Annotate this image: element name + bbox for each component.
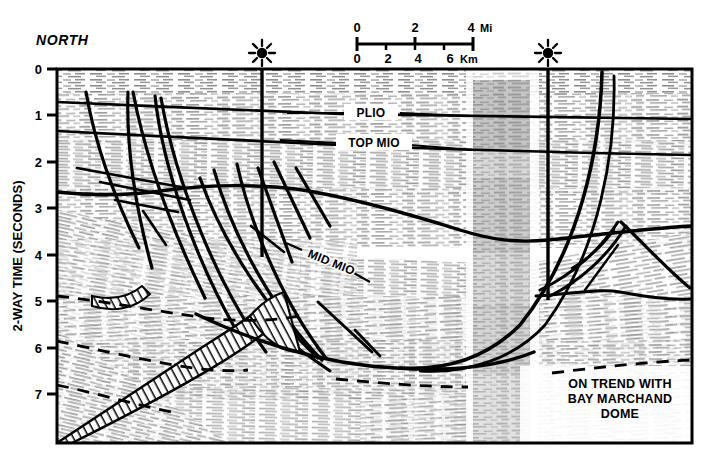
y-tick-label-0: 0: [35, 62, 42, 77]
trend-note-line1: ON TREND WITH: [568, 377, 671, 391]
scale-km-tick-2: 2: [384, 51, 391, 66]
horizon-label-plio: PLIO: [357, 106, 386, 120]
well-marker-2[interactable]: [535, 40, 561, 66]
trend-note-line2: BAY MARCHAND: [568, 392, 673, 406]
y-tick-label-5: 5: [35, 294, 42, 309]
orientation-label: NORTH: [36, 32, 89, 48]
y-tick-label-3: 3: [35, 201, 42, 216]
y-tick-label-7: 7: [35, 387, 42, 402]
starburst-icon: [543, 48, 553, 58]
y-tick-label-6: 6: [35, 341, 42, 356]
y-tick-label-4: 4: [35, 248, 43, 263]
trend-note-line3: DOME: [601, 407, 639, 421]
scale-mi-tick-4: 4: [467, 20, 475, 35]
scale-mi-tick-0: 0: [353, 20, 360, 35]
scale-km-tick-0: 0: [353, 51, 360, 66]
scale-km-tick-4: 4: [414, 51, 422, 66]
y-axis-title: 2-WAY TIME (SECONDS): [10, 181, 25, 332]
starburst-icon: [257, 48, 267, 58]
scale-mi-tick-2: 2: [411, 20, 418, 35]
scale-km-tick-6: 6: [446, 51, 453, 66]
seismic-cross-section-figure: NORTH 0 2 4 Mi 0 2 4 6 Km 2-WAY TIME (SE…: [0, 0, 710, 466]
scale-km-unit: Km: [460, 53, 478, 65]
y-tick-label-2: 2: [35, 155, 42, 170]
horizon-label-topmio: TOP MIO: [348, 136, 400, 150]
seismic-panel: PLIO TOP MIO MID MIO ON TREND WITH BAY M…: [57, 69, 692, 443]
scale-mi-unit: Mi: [480, 22, 492, 34]
y-tick-label-1: 1: [35, 108, 42, 123]
figure-canvas: NORTH 0 2 4 Mi 0 2 4 6 Km 2-WAY TIME (SE…: [0, 0, 710, 466]
well-marker-1[interactable]: [249, 40, 275, 66]
